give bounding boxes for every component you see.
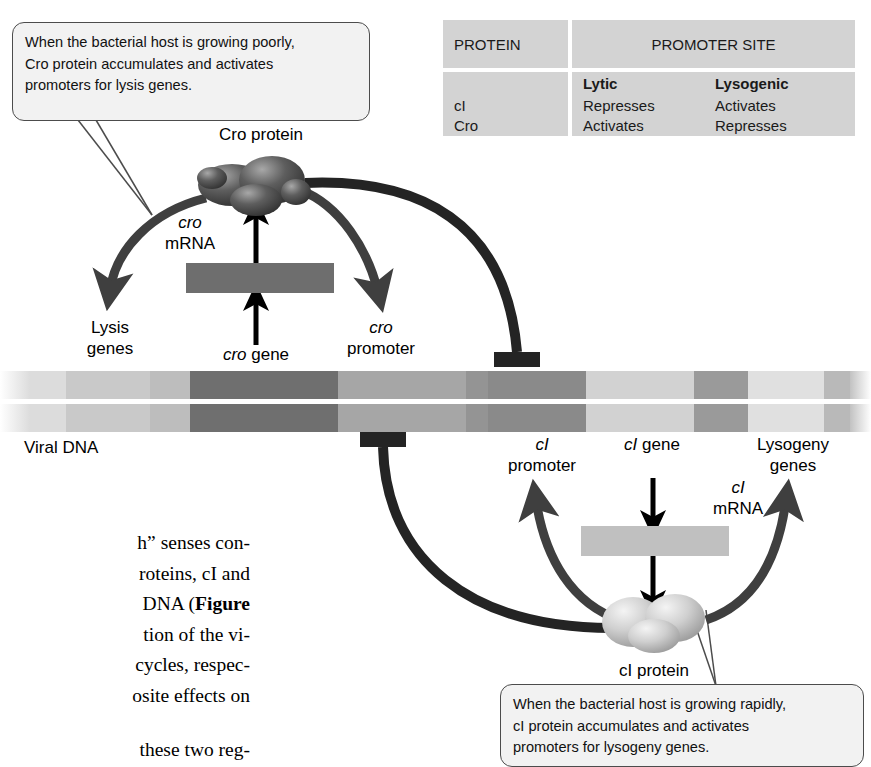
body-line-5: cycles, respec- <box>0 650 250 681</box>
cro-mrna-label: cro mRNA <box>140 212 240 254</box>
body-line-1: h” senses con- <box>0 528 250 559</box>
cro-gene-label: cro gene <box>186 344 326 365</box>
cro-promoter-label-l2: promoter <box>347 339 415 358</box>
ci-protein-shape <box>602 594 705 653</box>
table-cell-ci-lysogenic: Activates <box>715 97 776 114</box>
ci-promoter-label-l2: promoter <box>508 456 576 475</box>
ci-to-ci-promoter-arrow <box>536 500 620 620</box>
table-subheader-lysogenic: Lysogenic <box>715 75 789 92</box>
ci-mrna-label-gene: cI <box>731 478 744 497</box>
table-header-promoter-site: PROMOTER SITE <box>572 20 855 68</box>
cro-repression-tbar <box>494 352 540 367</box>
lysogeny-genes-label-l2: genes <box>770 456 816 475</box>
cro-gene-label-italic: cro <box>223 345 247 364</box>
ci-gene-label-rest: gene <box>637 435 680 454</box>
body-line-3-a: DNA ( <box>143 593 196 614</box>
viral-dna-label: Viral DNA <box>24 437 98 458</box>
lysis-genes-label: Lysis genes <box>58 317 162 359</box>
dna-strand-top <box>0 371 871 399</box>
body-paragraph: h” senses con- roteins, cI and DNA (Figu… <box>0 528 250 712</box>
lysogeny-genes-label-l1: Lysogeny <box>757 435 829 454</box>
cro-callout-pointer <box>78 120 152 215</box>
table-cell-cro-lytic: Activates <box>583 117 644 134</box>
ci-protein-label: cI protein <box>592 660 716 681</box>
cro-callout-line-1: When the bacterial host is growing poorl… <box>25 32 295 54</box>
lambda-switch-figure: When the bacterial host is growing poorl… <box>0 0 871 767</box>
ci-mrna-bar <box>581 526 729 556</box>
table-subheader-lytic: Lytic <box>583 75 617 92</box>
body-line-6: osite effects on <box>0 681 250 712</box>
body-line-4: tion of the vi- <box>0 620 250 651</box>
ci-callout-text: When the bacterial host is growing rapid… <box>513 694 786 759</box>
cro-callout-line-2: Cro protein accumulates and activates <box>25 54 295 76</box>
body-line-3-figure-ref: Figure <box>195 593 250 614</box>
ci-promoter-label: cI promoter <box>487 434 597 476</box>
cro-callout-line-3: promoters for lysis genes. <box>25 75 295 97</box>
table-header-protein: PROTEIN <box>443 20 568 68</box>
cro-mrna-label-gene: cro <box>178 213 202 232</box>
cro-gene-label-rest: gene <box>247 345 290 364</box>
ci-mrna-label-type: mRNA <box>713 499 763 518</box>
cro-promoter-label-l1: cro <box>369 318 393 337</box>
body-line-3: DNA (Figure <box>0 589 250 620</box>
ci-callout-line-1: When the bacterial host is growing rapid… <box>513 694 786 716</box>
ci-promoter-label-l1: cI <box>535 435 548 454</box>
table-cell-cro-lysogenic: Represses <box>715 117 787 134</box>
table-body-col-protein: cI Cro <box>443 72 568 136</box>
ci-callout-line-3: promoters for lysogeny genes. <box>513 737 786 759</box>
protein-promoter-table: PROTEIN PROMOTER SITE cI Cro Lytic Lysog… <box>443 20 855 136</box>
cro-mrna-bar <box>186 263 334 293</box>
viral-dna-strands <box>0 371 871 432</box>
table-cell-protein-cro: Cro <box>454 117 478 134</box>
ci-gene-label: cI gene <box>597 434 707 455</box>
cro-callout-text: When the bacterial host is growing poorl… <box>25 32 295 97</box>
body-line-2: roteins, cI and <box>0 559 250 590</box>
cro-callout: When the bacterial host is growing poorl… <box>12 22 370 121</box>
ci-gene-label-italic: cI <box>624 435 637 454</box>
cro-protein-shape <box>197 156 311 216</box>
table-body-col-promoters: Lytic Lysogenic Represses Activates Acti… <box>572 72 855 136</box>
table-cell-ci-lytic: Represses <box>583 97 655 114</box>
dna-strand-bottom <box>0 404 871 432</box>
ci-repression-tbar <box>360 432 406 447</box>
body-line-7: these two reg- <box>0 735 250 766</box>
ci-callout-line-2: cI protein accumulates and activates <box>513 716 786 738</box>
cro-mrna-label-type: mRNA <box>165 234 215 253</box>
lysis-genes-label-l2: genes <box>87 339 133 358</box>
lysis-genes-label-l1: Lysis <box>91 318 129 337</box>
body-paragraph-2: these two reg- <box>0 735 250 766</box>
table-cell-protein-ci: cI <box>454 97 466 114</box>
cro-protein-label: Cro protein <box>196 124 326 145</box>
cro-promoter-label: cro promoter <box>322 317 440 359</box>
ci-mrna-label: cI mRNA <box>690 477 786 519</box>
lysogeny-genes-label: Lysogeny genes <box>731 434 855 476</box>
ci-callout: When the bacterial host is growing rapid… <box>500 684 864 767</box>
